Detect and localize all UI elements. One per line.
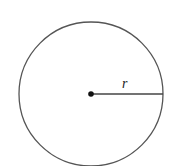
circle-diagram: r: [0, 0, 175, 166]
radius-label: r: [122, 76, 128, 91]
center-point: [88, 91, 94, 97]
